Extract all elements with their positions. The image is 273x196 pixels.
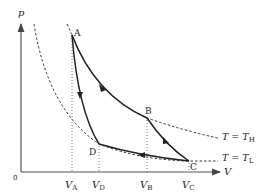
p-axis-label: p <box>18 7 25 18</box>
arrow-b-c-icon <box>163 137 169 144</box>
v-axis-label: V <box>224 166 233 177</box>
point-c-label: C <box>190 162 197 172</box>
isotherm-low <box>34 24 218 161</box>
arrow-d-a-icon <box>77 92 83 99</box>
axes: p V 0 <box>13 7 233 182</box>
arrow-c-d-icon <box>138 152 145 158</box>
origin-label: 0 <box>13 174 17 182</box>
point-a-label: A <box>73 28 81 38</box>
point-labels: A B C D <box>73 28 197 172</box>
process-d-a <box>72 35 99 144</box>
isotherm-low-label: T = TL <box>222 152 254 165</box>
point-b-label: B <box>145 106 152 116</box>
isotherms <box>34 24 218 161</box>
v-c-label: VC <box>182 179 195 192</box>
v-b-label: VB <box>140 179 152 192</box>
isotherm-labels: T = TH T = TL <box>222 131 255 165</box>
carnot-cycle-diagram: p V 0 A B C D <box>0 0 273 196</box>
point-d-label: D <box>89 147 96 157</box>
v-d-label: VD <box>92 179 105 192</box>
volume-labels: VA VD VB VC <box>65 179 195 192</box>
isotherm-high <box>67 24 218 138</box>
v-a-label: VA <box>65 179 78 192</box>
isotherm-high-label: T = TH <box>222 131 255 144</box>
cycle-path <box>72 35 189 161</box>
